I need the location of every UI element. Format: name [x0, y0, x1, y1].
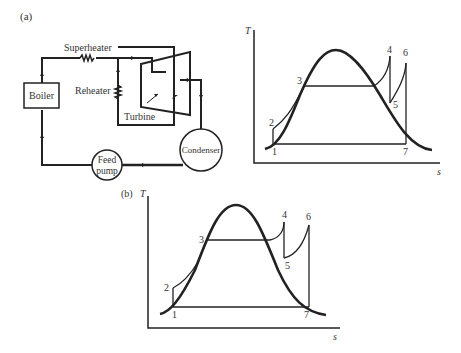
chart-b-point-3: 3	[199, 234, 204, 245]
turbine-label: Turbine	[124, 111, 156, 122]
power-plant-schematic	[40, 47, 203, 167]
chart-b-y-label: T	[140, 188, 147, 199]
superheater-label: Superheater	[64, 42, 112, 53]
panel-a-label: (a)	[20, 10, 33, 23]
feed-pump-label-line2: pump	[96, 166, 118, 176]
figure-canvas: (a) Boiler Superheater Re	[0, 0, 461, 353]
feed-pump-label-line1: Feed	[98, 155, 117, 165]
chart-a-y-label: T	[245, 25, 252, 36]
chart-a-cycle-path	[273, 56, 406, 144]
chart-b-point-5: 5	[285, 260, 290, 271]
superheater-coil-icon	[80, 55, 94, 61]
chart-b-point-1: 1	[172, 309, 177, 320]
chart-a-saturation-dome	[265, 50, 432, 150]
reheater-label: Reheater	[75, 85, 111, 96]
ts-diagram-b: T s 1 2 3 4 5 6 7	[140, 188, 340, 342]
ts-diagram-a: T s 1 2 3 4 5 6 7	[245, 25, 441, 177]
chart-a-axes	[254, 30, 440, 163]
chart-b-point-2: 2	[164, 282, 169, 293]
chart-a-point-7: 7	[403, 146, 408, 157]
chart-a-point-4: 4	[387, 44, 392, 55]
chart-a-x-label: s	[437, 166, 441, 177]
turbine-shape	[141, 52, 190, 115]
chart-a-point-2: 2	[269, 117, 274, 128]
condenser-label: Condenser	[182, 145, 221, 155]
chart-a-point-1: 1	[272, 146, 277, 157]
chart-a-point-5: 5	[393, 99, 398, 110]
chart-b-point-4: 4	[282, 209, 287, 220]
chart-a-point-3: 3	[297, 75, 302, 86]
chart-a-point-6: 6	[403, 47, 408, 58]
chart-b-x-label: s	[333, 331, 337, 342]
chart-b-point-7: 7	[304, 309, 309, 320]
panel-b-label: (b)	[121, 188, 133, 200]
boiler-label: Boiler	[29, 90, 55, 101]
chart-b-saturation-dome	[160, 205, 326, 315]
chart-b-point-6: 6	[306, 211, 311, 222]
